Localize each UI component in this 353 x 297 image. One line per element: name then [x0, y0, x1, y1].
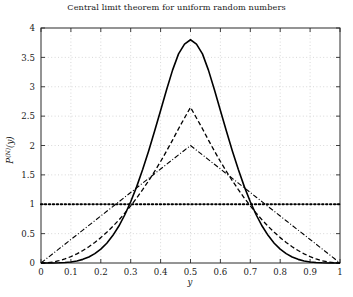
y-axis-label-arg: (y)	[5, 136, 15, 148]
y-tick-label: 3.5	[21, 53, 35, 63]
y-tick-label: 4	[30, 23, 36, 33]
x-tick-label: 0	[38, 267, 43, 277]
x-tick-label: 0.9	[303, 267, 317, 277]
y-tick-label: 3	[30, 82, 35, 92]
x-tick-label: 0.4	[154, 267, 168, 277]
x-tick-label: 0.3	[124, 267, 138, 277]
y-tick-label: 0.5	[21, 229, 35, 239]
x-tick-label: 0.6	[214, 267, 228, 277]
chart-plot: 00.10.20.30.40.50.60.70.80.91 00.511.522…	[0, 0, 353, 297]
x-tick-label: 0.8	[273, 267, 287, 277]
x-tick-label: 0.5	[184, 267, 198, 277]
y-tick-label: 2.5	[21, 111, 35, 121]
x-tick-label: 1	[337, 267, 342, 277]
y-tick-label: 0	[30, 258, 35, 268]
x-tick-label: 0.2	[94, 267, 108, 277]
x-tick-label: 0.1	[64, 267, 78, 277]
x-axis-label: y	[187, 277, 193, 287]
x-tick-labels: 00.10.20.30.40.50.60.70.80.91	[38, 267, 342, 277]
y-tick-labels: 00.511.522.533.54	[21, 23, 35, 268]
figure-container: Central limit theorem for uniform random…	[0, 0, 353, 297]
y-tick-label: 1.5	[21, 170, 35, 180]
svg-text:P(N)(y): P(N)(y)	[4, 136, 15, 164]
y-axis-label: P(N)(y)	[4, 136, 15, 164]
x-tick-label: 0.7	[243, 267, 257, 277]
y-tick-label: 1	[30, 199, 35, 209]
y-tick-label: 2	[30, 141, 35, 151]
